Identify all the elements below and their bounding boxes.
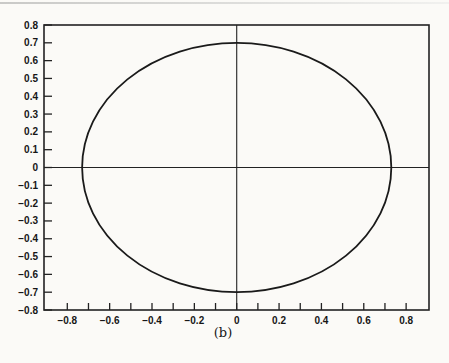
y-tick-label: −0.6 [18, 269, 38, 280]
y-tick-label: −0.8 [18, 305, 38, 316]
x-tick-label: −0.4 [142, 315, 162, 326]
plot-svg: −0.8−0.6−0.4−0.200.20.40.60.80.80.70.60.… [0, 0, 449, 363]
x-tick-label: −0.6 [100, 315, 120, 326]
x-tick-label: 0 [234, 315, 240, 326]
y-tick-label: 0.7 [24, 37, 38, 48]
y-tick-label: 0.2 [24, 126, 38, 137]
y-tick-label: −0.1 [18, 180, 38, 191]
x-tick-label: −0.8 [57, 315, 77, 326]
y-tick-label: −0.4 [18, 233, 38, 244]
y-tick-label: 0.8 [24, 20, 38, 31]
y-tick-label: −0.2 [18, 198, 38, 209]
x-tick-label: −0.2 [184, 315, 204, 326]
y-tick-label: 0 [32, 162, 38, 173]
y-tick-label: 0.4 [24, 91, 38, 102]
x-tick-label: 0.6 [357, 315, 371, 326]
y-tick-label: −0.7 [18, 287, 38, 298]
y-tick-label: 0.1 [24, 144, 38, 155]
x-tick-label: 0.2 [272, 315, 286, 326]
x-tick-label: 0.4 [314, 315, 328, 326]
y-tick-label: −0.3 [18, 215, 38, 226]
y-tick-label: 0.3 [24, 109, 38, 120]
x-tick-label: 0.8 [399, 315, 413, 326]
y-tick-label: 0.5 [24, 73, 38, 84]
y-tick-label: −0.5 [18, 251, 38, 262]
scanned-page: −0.8−0.6−0.4−0.200.20.40.60.80.80.70.60.… [0, 0, 449, 363]
subplot-caption: (b) [214, 325, 232, 340]
y-tick-label: 0.6 [24, 55, 38, 66]
